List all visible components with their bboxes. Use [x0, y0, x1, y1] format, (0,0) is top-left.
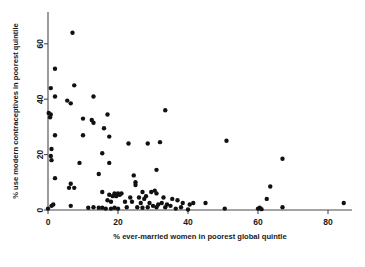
data-point [191, 201, 195, 205]
data-point [133, 183, 137, 187]
data-point [130, 199, 134, 203]
data-point [268, 184, 272, 188]
data-point [140, 206, 144, 210]
data-point [135, 205, 139, 209]
data-point [168, 204, 172, 208]
data-point [163, 205, 167, 209]
y-tick-label: 20 [35, 150, 45, 160]
data-point [53, 94, 57, 98]
y-tick-label: 0 [35, 207, 45, 212]
data-point [170, 197, 174, 201]
tick-marks-group [44, 44, 328, 214]
data-points-group [46, 31, 346, 212]
data-point [69, 181, 73, 185]
y-axis-title: % use modern contraceptives in poorest q… [11, 23, 20, 199]
data-point [70, 31, 74, 35]
data-point [97, 172, 101, 176]
x-tick-label: 40 [183, 217, 193, 227]
data-point [49, 147, 53, 151]
x-tick-labels-group: 020406080 [46, 217, 333, 227]
y-tick-label: 60 [35, 39, 45, 49]
data-point [128, 195, 132, 199]
x-tick-label: 80 [323, 217, 333, 227]
data-point [175, 198, 179, 202]
data-point [280, 157, 284, 161]
data-point [49, 158, 53, 162]
data-point [132, 173, 136, 177]
data-point [224, 139, 228, 143]
data-point [137, 195, 141, 199]
data-point [91, 121, 95, 125]
data-point [102, 126, 106, 130]
data-point [154, 191, 158, 195]
x-tick-label: 20 [113, 217, 123, 227]
data-point [100, 190, 104, 194]
data-point [174, 206, 178, 210]
data-point [265, 197, 269, 201]
data-point [163, 108, 167, 112]
data-point [154, 168, 158, 172]
data-point [86, 206, 90, 210]
y-tick-label: 40 [35, 94, 45, 104]
data-point [181, 201, 185, 205]
data-point [107, 134, 111, 138]
data-point [147, 201, 151, 205]
data-point [65, 98, 69, 102]
data-point [51, 202, 55, 206]
data-point [49, 154, 53, 158]
data-point [91, 94, 95, 98]
data-point [107, 161, 111, 165]
data-point [48, 115, 52, 119]
data-point [160, 201, 164, 205]
scatter-plot-figure: 020406080 0204060 % ever-married women i… [0, 0, 365, 267]
data-point [259, 207, 263, 211]
data-point [72, 186, 76, 190]
x-tick-label: 60 [253, 217, 263, 227]
data-point [158, 140, 162, 144]
data-point [69, 204, 73, 208]
data-point [116, 206, 120, 210]
data-point [125, 205, 129, 209]
x-tick-label: 0 [46, 217, 51, 227]
data-point [280, 205, 284, 209]
data-point [81, 133, 85, 137]
data-point [146, 141, 150, 145]
axes-group [48, 12, 352, 210]
data-point [203, 201, 207, 205]
data-point [91, 205, 95, 209]
data-point [118, 193, 122, 197]
plot-canvas: 020406080 0204060 % ever-married women i… [0, 0, 365, 267]
data-point [49, 86, 53, 90]
data-point [142, 197, 146, 201]
data-point [69, 101, 73, 105]
data-point [161, 195, 165, 199]
data-point [342, 201, 346, 205]
data-point [140, 190, 144, 194]
data-point [77, 161, 81, 165]
data-point [104, 206, 108, 210]
data-point [81, 116, 85, 120]
data-point [46, 206, 50, 210]
data-point [186, 207, 190, 211]
data-point [223, 206, 227, 210]
data-point [126, 141, 130, 145]
data-point [53, 176, 57, 180]
data-point [123, 199, 127, 203]
data-point [139, 201, 143, 205]
y-tick-labels-group: 0204060 [35, 39, 45, 213]
data-point [53, 133, 57, 137]
data-point [179, 205, 183, 209]
x-axis-title: % ever-married women in poorest global q… [113, 232, 286, 241]
data-point [105, 112, 109, 116]
data-point [67, 186, 71, 190]
data-point [109, 199, 113, 203]
data-point [100, 151, 104, 155]
data-point [53, 67, 57, 71]
data-point [146, 205, 150, 209]
data-point [72, 83, 76, 87]
data-point [154, 205, 158, 209]
